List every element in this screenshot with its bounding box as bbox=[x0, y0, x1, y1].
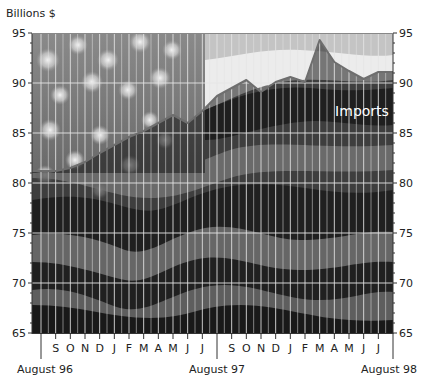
x-month-label: O bbox=[66, 342, 75, 355]
x-month-label: D bbox=[95, 342, 103, 355]
x-major-label: August 96 bbox=[17, 363, 73, 376]
x-month-label: M bbox=[139, 342, 149, 355]
y-tick-label-left: 95 bbox=[12, 27, 26, 40]
y-tick-label-right: 70 bbox=[399, 277, 413, 290]
imports-series-label: Imports bbox=[335, 103, 389, 119]
y-tick-label-right: 65 bbox=[399, 327, 413, 340]
y-tick-label-left: 80 bbox=[12, 177, 26, 190]
flag-background bbox=[32, 31, 400, 333]
y-tick-label-right: 95 bbox=[399, 27, 413, 40]
x-month-label: A bbox=[331, 342, 339, 355]
x-month-label: J bbox=[376, 342, 380, 355]
x-month-label: N bbox=[257, 342, 265, 355]
x-month-label: S bbox=[52, 342, 59, 355]
x-month-label: J bbox=[185, 342, 189, 355]
y-tick-label-right: 85 bbox=[399, 127, 413, 140]
x-month-label: D bbox=[271, 342, 279, 355]
x-month-label: F bbox=[126, 342, 132, 355]
x-month-label: F bbox=[302, 342, 308, 355]
x-major-label: August 97 bbox=[189, 363, 245, 376]
y-tick-label-right: 75 bbox=[399, 227, 413, 240]
chart-canvas: 65707580859095 65707580859095 SONDJFMAMJ… bbox=[0, 0, 425, 378]
y-tick-label-left: 65 bbox=[12, 327, 26, 340]
y-tick-label-right: 80 bbox=[399, 177, 413, 190]
x-month-label: A bbox=[155, 342, 163, 355]
y-tick-label-right: 90 bbox=[399, 77, 413, 90]
y-tick-label-left: 70 bbox=[12, 277, 26, 290]
x-month-label: J bbox=[200, 342, 204, 355]
x-month-label: J bbox=[288, 342, 292, 355]
x-month-label: J bbox=[361, 342, 365, 355]
x-month-label: M bbox=[315, 342, 325, 355]
y-axis-unit-label: Billions $ bbox=[6, 7, 56, 20]
x-month-label: O bbox=[242, 342, 251, 355]
x-month-label: J bbox=[112, 342, 116, 355]
x-month-label: N bbox=[81, 342, 89, 355]
y-tick-label-left: 75 bbox=[12, 227, 26, 240]
x-major-label: August 98 bbox=[361, 363, 417, 376]
imports-chart: Billions $ bbox=[0, 0, 425, 378]
y-tick-label-left: 90 bbox=[12, 77, 26, 90]
x-month-label: S bbox=[228, 342, 235, 355]
y-tick-label-left: 85 bbox=[12, 127, 26, 140]
x-month-label: M bbox=[344, 342, 354, 355]
x-month-label: M bbox=[168, 342, 178, 355]
